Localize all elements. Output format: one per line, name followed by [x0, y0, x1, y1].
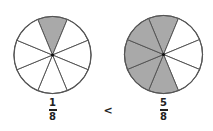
fraction-right: 5 8 — [154, 98, 174, 122]
fraction-left: 1 8 — [43, 98, 63, 122]
fraction-right-denominator: 8 — [154, 112, 174, 122]
fraction-right-numerator: 5 — [154, 98, 174, 108]
fraction-left-denominator: 8 — [43, 112, 63, 122]
center-dot — [51, 53, 54, 56]
fraction-circle-one-eighth — [14, 17, 91, 94]
comparison-symbol: < — [101, 104, 115, 117]
fraction-left-numerator: 1 — [43, 98, 63, 108]
center-dot — [162, 53, 165, 56]
fraction-circle-five-eighths — [125, 16, 203, 94]
